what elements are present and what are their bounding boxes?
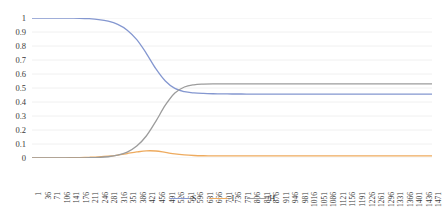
chart-legend: SIH <box>0 194 445 203</box>
y-axis-tick-label: 0.3 <box>15 112 26 121</box>
y-axis-tick-label: 1 <box>22 14 26 23</box>
y-axis-tick-label: 0.7 <box>15 56 26 65</box>
legend-item-S[interactable]: S <box>170 194 197 203</box>
legend-line-swatch <box>170 198 189 199</box>
legend-label: H <box>269 194 275 203</box>
legend-line-swatch <box>247 198 266 199</box>
y-axis-tick-label: 0 <box>22 154 26 163</box>
x-axis: 1367110614117621124628131635138642145649… <box>32 160 432 194</box>
plot-area <box>32 18 432 158</box>
series-lines <box>32 18 432 158</box>
series-line-S <box>32 18 432 94</box>
series-line-H <box>32 84 432 158</box>
y-axis-tick-label: 0.1 <box>15 140 26 149</box>
y-axis-tick-label: 0.9 <box>15 28 26 37</box>
legend-item-H[interactable]: H <box>247 194 275 203</box>
y-axis-tick-label: 0.2 <box>15 126 26 135</box>
series-line-I <box>32 151 432 158</box>
line-chart: 00.10.20.30.40.50.60.70.80.91 1367110614… <box>0 0 445 215</box>
y-axis: 00.10.20.30.40.50.60.70.80.91 <box>0 0 29 176</box>
y-axis-tick-label: 0.6 <box>15 70 26 79</box>
legend-label: S <box>192 194 197 203</box>
legend-label: I <box>231 194 234 203</box>
legend-line-swatch <box>209 198 228 199</box>
y-axis-tick-label: 0.4 <box>15 98 26 107</box>
y-axis-tick-label: 0.8 <box>15 42 26 51</box>
legend-item-I[interactable]: I <box>209 194 234 203</box>
y-axis-tick-label: 0.5 <box>15 84 26 93</box>
